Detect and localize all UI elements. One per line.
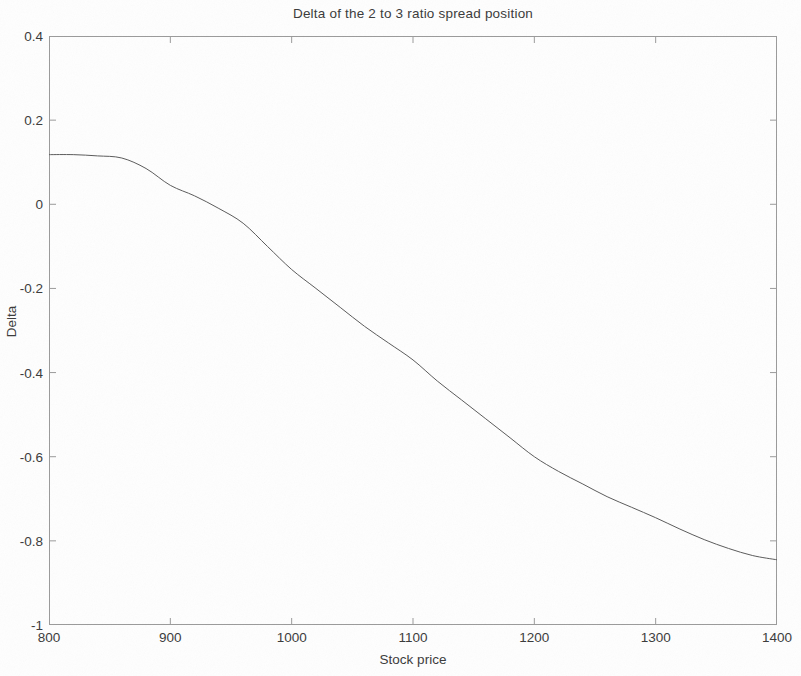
plot-area [49, 36, 777, 625]
chart-figure: Delta of the 2 to 3 ratio spread positio… [0, 0, 801, 676]
y-tick-label: 0.4 [24, 29, 43, 44]
y-axis-tick-labels: 0.40.20-0.2-0.4-0.6-0.8-1 [0, 36, 43, 625]
x-tick-label: 1100 [398, 630, 427, 645]
plot-canvas [49, 36, 777, 625]
x-axis-tick-labels: 80090010001100120013001400 [49, 630, 777, 650]
y-tick-label: 0 [35, 197, 43, 212]
tick-marks [49, 36, 777, 625]
y-tick-label: 0.2 [24, 113, 43, 128]
delta-curve [49, 155, 777, 560]
y-tick-label: -0.4 [20, 365, 43, 380]
x-tick-label: 1300 [641, 630, 671, 645]
y-tick-label: -0.8 [20, 533, 43, 548]
x-tick-label: 1000 [277, 630, 307, 645]
x-tick-label: 900 [159, 630, 182, 645]
y-tick-label: -0.2 [20, 281, 43, 296]
x-axis-label: Stock price [49, 652, 777, 667]
x-tick-label: 1200 [519, 630, 549, 645]
x-tick-label: 1400 [762, 630, 792, 645]
y-tick-label: -0.6 [20, 449, 43, 464]
x-tick-label: 800 [38, 630, 61, 645]
chart-title: Delta of the 2 to 3 ratio spread positio… [49, 6, 777, 21]
